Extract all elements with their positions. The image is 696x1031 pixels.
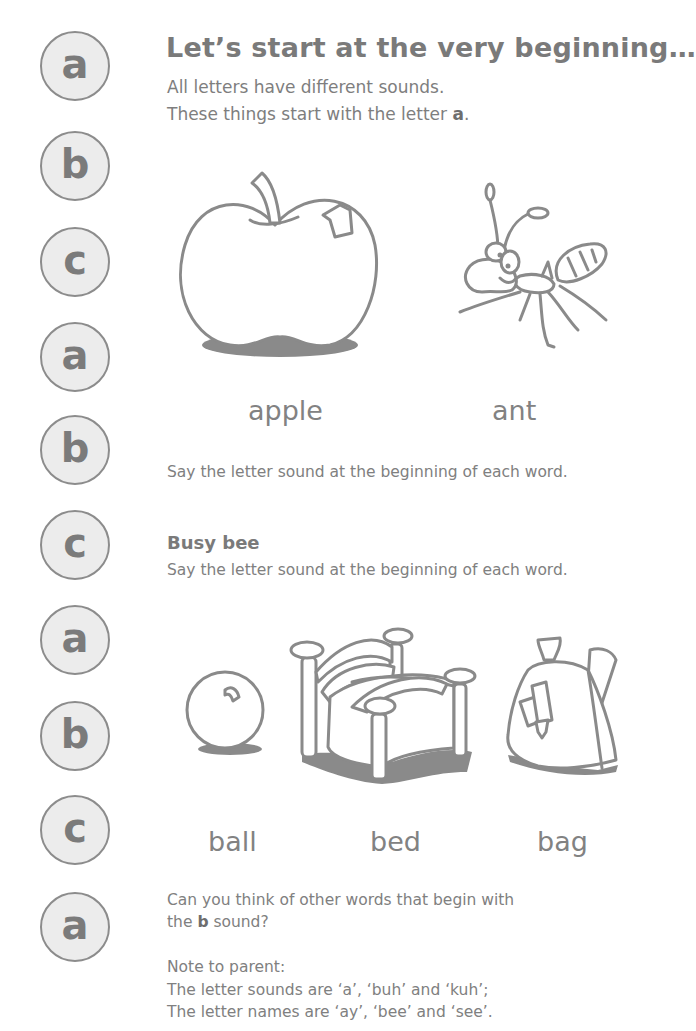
note-line-2: The letter names are ‘ay’, ‘bee’ and ‘se… [167,1001,493,1023]
letter-circle-a: a [40,605,110,675]
picture-label-bed: bed [370,826,421,857]
page-title: Let’s start at the very beginning… [166,32,696,63]
letter-circle-b: b [40,701,110,771]
ant-icon [450,180,620,355]
letter-circle-c: c [40,795,110,865]
ball-icon [185,665,275,765]
note-heading: Note to parent: [167,956,285,978]
picture-label-bag: bag [537,826,588,857]
note-line-1: The letter sounds are ‘a’, ‘buh’ and ‘ku… [167,979,488,1001]
intro-line-1: All letters have different sounds. [167,75,444,100]
question-line-2: the b sound? [167,911,269,933]
picture-label-ant: ant [492,395,536,426]
instruction-text-2: Say the letter sound at the beginning of… [167,559,568,581]
letter-circle-c: c [40,510,110,580]
instruction-text-1: Say the letter sound at the beginning of… [167,461,568,483]
letter-circle-b: b [40,415,110,485]
letter-circle-a: a [40,322,110,392]
bag-icon [498,630,628,780]
question-line-1: Can you think of other words that begin … [167,889,514,911]
highlight-letter: b [197,913,208,931]
letter-circle-a: a [40,892,110,962]
apple-icon [170,165,390,365]
letter-circle-b: b [40,131,110,201]
section-title-busy-bee: Busy bee [167,532,260,553]
highlight-letter: a [452,104,463,124]
intro-line-2: These things start with the letter a. [167,102,469,127]
letter-circle-a: a [40,31,110,101]
picture-label-apple: apple [248,395,323,426]
bed-icon [282,622,487,787]
letter-circle-c: c [40,227,110,297]
picture-label-ball: ball [208,826,257,857]
